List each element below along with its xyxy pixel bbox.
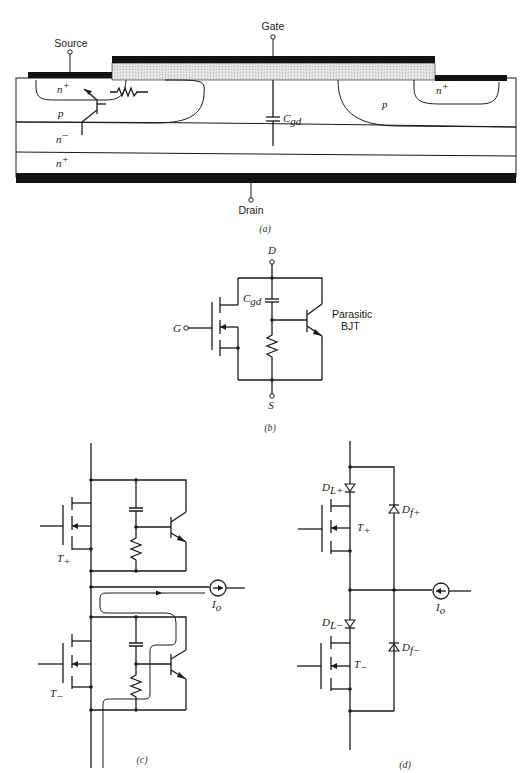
current-path-trace	[100, 593, 205, 768]
source-terminal-icon	[68, 50, 72, 54]
diode-df-plus-icon	[389, 505, 399, 513]
body-resistor-icon	[110, 88, 148, 96]
dl-plus-label: DL+	[321, 481, 344, 496]
gate-terminal-icon	[184, 326, 188, 330]
textbook-figure-page: Cgd n+ p n− n+ p n+ Gate Source Drain (a…	[0, 0, 530, 773]
upper-switch-label: T+	[357, 521, 371, 536]
source-label: Source	[54, 37, 87, 49]
gate-g-label: G	[173, 322, 181, 334]
cgd-label: Cgd	[243, 292, 262, 307]
n-plus-right	[414, 80, 499, 104]
embedded-bjt-icon	[82, 89, 106, 135]
current-source-label: Io	[435, 601, 446, 616]
resistor-icon	[267, 320, 277, 380]
panel-b-equivalent-circuit: D G Cgd	[173, 244, 372, 434]
gate-label: Gate	[262, 20, 285, 32]
panel-c-half-bridge-bjt: T+ Io	[38, 443, 245, 768]
diode-dl-plus-icon	[345, 484, 355, 492]
lower-switch-label: T−	[354, 658, 368, 673]
p-right-label: p	[381, 98, 388, 110]
source-metal	[28, 72, 112, 78]
caption-d: (d)	[399, 759, 411, 771]
lower-mosfet-icon	[63, 634, 93, 689]
capacitor-icon	[129, 480, 143, 527]
n-plus-left-label: n+	[57, 79, 70, 95]
diode-dl-minus-icon	[345, 620, 355, 628]
resistor-icon	[131, 664, 141, 710]
gate-oxide	[112, 63, 435, 80]
panel-d-half-bridge-diodes: DL+ Df+ T+ Io	[297, 441, 471, 771]
mosfet-icon	[212, 297, 240, 380]
capacitor-cgd-icon	[266, 80, 280, 146]
gate-metal	[112, 56, 435, 63]
caption-a: (a)	[259, 223, 271, 235]
lower-switch-label: T−	[50, 687, 64, 702]
df-plus-label: Df+	[401, 503, 420, 518]
drain-terminal-icon	[249, 198, 253, 202]
cgd-label: Cgd	[283, 112, 302, 127]
source-terminal-icon	[270, 394, 274, 398]
drain-terminal-icon	[270, 260, 274, 264]
parasitic-bjt-icon	[136, 645, 186, 710]
n-plus-substrate-label: n+	[56, 153, 69, 169]
dl-minus-label: DL−	[321, 616, 344, 631]
n-plus-boundary	[16, 152, 516, 156]
df-minus-label: Df−	[401, 641, 420, 656]
caption-c: (c)	[136, 754, 148, 766]
upper-switch-label: T+	[57, 552, 71, 567]
panel-a-cross-section: Cgd n+ p n− n+ p n+ Gate Source Drain (a…	[16, 20, 516, 235]
current-source-label: Io	[211, 598, 222, 613]
n-plus-right-label: n+	[436, 80, 449, 96]
p-left-label: p	[57, 107, 64, 119]
p-well-left	[16, 80, 204, 123]
bjt-label-line1: Parasitic	[332, 308, 372, 320]
drain-d-label: D	[267, 244, 276, 256]
resistor-icon	[131, 527, 141, 571]
parasitic-bjt-icon	[272, 304, 322, 380]
lower-mosfet-icon	[321, 636, 352, 691]
upper-mosfet-icon	[322, 499, 352, 554]
drain-metal	[16, 173, 516, 183]
n-plus-left	[36, 80, 126, 100]
source-s-label: S	[268, 399, 274, 411]
bjt-label-line2: BJT	[341, 320, 360, 332]
capacitor-icon	[129, 617, 143, 664]
gate-terminal-icon	[271, 35, 275, 39]
n-minus-label: n−	[56, 129, 69, 145]
caption-b: (b)	[264, 422, 276, 434]
current-direction-arrow-icon	[156, 591, 162, 596]
upper-mosfet-icon	[63, 497, 93, 551]
capacitor-cgd-icon	[265, 278, 279, 320]
drain-label: Drain	[238, 204, 263, 216]
parasitic-bjt-icon	[136, 504, 186, 571]
